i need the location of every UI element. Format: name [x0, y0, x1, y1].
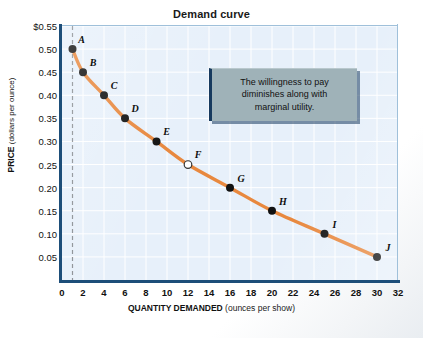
data-point-label-j: J — [386, 241, 391, 252]
data-point-label-g: G — [237, 172, 244, 183]
x-axis-title-bold: QUANTITY DEMANDED — [128, 303, 223, 313]
x-tick-label-5: 10 — [162, 287, 173, 298]
data-point-a — [69, 45, 77, 53]
axis-x-spine — [59, 280, 400, 283]
x-tick-label-11: 22 — [288, 287, 299, 298]
demand-curve-figure: Demand curve ABCDEFGHIJ 0.050.100.150.20… — [0, 0, 423, 338]
data-point-label-f: F — [195, 148, 202, 159]
demand-curve-series — [62, 26, 398, 280]
data-point-label-a: A — [78, 34, 85, 45]
y-tick-label-2: 0.15 — [3, 205, 57, 216]
x-tick-label-6: 12 — [183, 287, 194, 298]
x-tick-label-16: 32 — [393, 287, 404, 298]
willingness-to-pay-callout: The willingness to pay diminishes along … — [209, 68, 357, 121]
x-axis-tick-labels: 02468101214161820222426283032 — [0, 287, 423, 301]
data-point-d — [121, 114, 129, 122]
x-axis-title: QUANTITY DEMANDED (ounces per show) — [0, 303, 423, 313]
data-point-g — [226, 184, 234, 192]
y-tick-label-1: 0.10 — [3, 228, 57, 239]
y-tick-label-10: $0.55 — [3, 21, 57, 32]
callout-line-3: marginal utility. — [218, 101, 351, 113]
x-tick-label-7: 14 — [204, 287, 215, 298]
x-tick-label-0: 0 — [59, 287, 64, 298]
x-tick-label-4: 8 — [143, 287, 148, 298]
y-axis-title: PRICE (dollars per ounce) — [6, 60, 16, 190]
data-point-h — [268, 207, 276, 215]
chart-title: Demand curve — [0, 8, 423, 20]
y-axis-title-sub: (dollars per ounce) — [7, 78, 16, 145]
plot-area: ABCDEFGHIJ — [62, 26, 398, 280]
x-tick-label-14: 28 — [351, 287, 362, 298]
y-tick-label-0: 0.05 — [3, 251, 57, 262]
x-tick-label-2: 4 — [101, 287, 106, 298]
data-point-e — [153, 137, 161, 145]
axis-right-spine — [397, 24, 398, 282]
x-tick-label-10: 20 — [267, 287, 278, 298]
data-point-label-c: C — [111, 80, 118, 91]
data-point-f — [184, 161, 192, 169]
axis-y-spine — [59, 24, 62, 282]
callout-line-1: The willingness to pay — [218, 76, 351, 88]
data-point-label-h: H — [279, 195, 287, 206]
callout-line-2: diminishes along with — [218, 88, 351, 100]
x-tick-label-13: 26 — [330, 287, 341, 298]
x-tick-label-12: 24 — [309, 287, 320, 298]
data-point-label-b: B — [90, 57, 97, 68]
x-tick-label-15: 30 — [372, 287, 383, 298]
data-point-i — [321, 230, 329, 238]
x-tick-label-8: 16 — [225, 287, 236, 298]
x-tick-label-1: 2 — [80, 287, 85, 298]
data-point-label-d: D — [131, 103, 138, 114]
x-tick-label-9: 18 — [246, 287, 257, 298]
data-point-j — [373, 253, 381, 261]
data-point-c — [100, 91, 108, 99]
axis-top-spine — [59, 25, 398, 26]
data-point-label-e: E — [163, 126, 170, 137]
x-axis-title-sub: (ounces per show) — [225, 303, 295, 313]
y-tick-label-9: 0.50 — [3, 44, 57, 55]
x-tick-label-3: 6 — [122, 287, 127, 298]
data-point-b — [79, 68, 87, 76]
y-axis-title-bold: PRICE — [6, 146, 16, 172]
data-point-label-i: I — [333, 218, 337, 229]
